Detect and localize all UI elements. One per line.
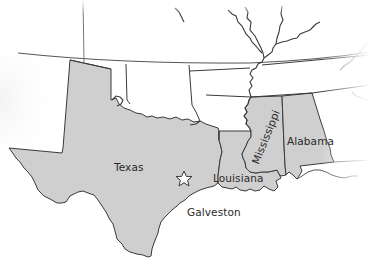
land-shading xyxy=(0,55,70,145)
label-texas: Texas xyxy=(114,162,144,173)
label-louisiana: Louisiana xyxy=(213,173,263,184)
label-galveston: Galveston xyxy=(187,207,241,218)
label-alabama: Alabama xyxy=(287,136,334,147)
